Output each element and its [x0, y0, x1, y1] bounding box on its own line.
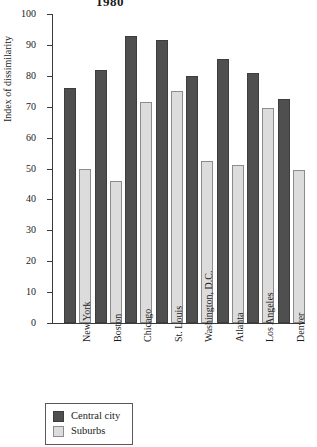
y-axis-tick: [47, 169, 53, 170]
x-axis-tick-label: Los Angeles: [264, 292, 275, 342]
x-axis-tick-label: New York: [81, 301, 92, 342]
legend-label: Central city: [71, 411, 120, 422]
y-axis-tick-label: 70: [26, 102, 36, 112]
bar-suburbs: [110, 181, 122, 323]
bar-group: [156, 14, 184, 323]
legend-label: Suburbs: [71, 426, 105, 437]
bar-suburbs: [293, 170, 305, 323]
bar-group: [247, 14, 275, 323]
y-axis-tick: [47, 45, 53, 46]
y-axis-tick: [47, 138, 53, 139]
bar-suburbs: [232, 165, 244, 323]
bar-central-city: [186, 76, 198, 323]
bar-group: [217, 14, 245, 323]
y-axis-tick-label: 90: [26, 40, 36, 50]
y-axis-tick-label: 60: [26, 133, 36, 143]
legend-item: Suburbs: [53, 424, 120, 439]
bar-central-city: [217, 59, 229, 323]
y-axis-title: Index of dissimilarity: [2, 36, 13, 122]
y-axis-tick-label: 30: [26, 225, 36, 235]
bar-suburbs: [262, 108, 274, 323]
y-axis-tick-label: 20: [26, 256, 36, 266]
bar-central-city: [247, 73, 259, 323]
y-axis-tick-label: 80: [26, 71, 36, 81]
x-axis-tick-label: Boston: [112, 314, 123, 342]
y-axis-tick: [47, 261, 53, 262]
chart-legend: Central citySuburbs: [45, 403, 133, 445]
bar-central-city: [125, 36, 137, 323]
legend-swatch-icon: [53, 426, 64, 437]
bar-suburbs: [171, 91, 183, 323]
bar-central-city: [278, 99, 290, 323]
bar-central-city: [64, 88, 76, 323]
chart-figure: 1980 Index of dissimilarity 010203040506…: [0, 0, 317, 447]
y-axis-tick-label: 40: [26, 194, 36, 204]
x-axis-tick-label: St. Louis: [173, 306, 184, 342]
bar-suburbs: [79, 169, 91, 324]
y-axis-tick: [47, 230, 53, 231]
bar-group: [95, 14, 123, 323]
x-axis-tick-label: Atlanta: [234, 313, 245, 342]
legend-item: Central city: [53, 409, 120, 424]
y-axis-tick: [47, 76, 53, 77]
bar-central-city: [95, 70, 107, 323]
y-axis-tick-label: 10: [26, 287, 36, 297]
x-axis-tick-label: Chicago: [142, 309, 153, 342]
bar-group: [125, 14, 153, 323]
bar-suburbs: [140, 102, 152, 323]
bar-central-city: [156, 40, 168, 323]
legend-swatch-icon: [53, 411, 64, 422]
x-axis-tick-label: Denver: [295, 313, 306, 342]
bar-group: [278, 14, 306, 323]
y-axis-tick-label: 0: [31, 318, 36, 328]
y-axis-tick: [47, 323, 53, 324]
x-axis-tick-label: Washington, D.C.: [203, 271, 214, 342]
y-axis-tick: [47, 292, 53, 293]
y-axis-tick-label: 50: [26, 164, 36, 174]
y-axis-tick-label: 100: [21, 9, 36, 19]
bar-group: [64, 14, 92, 323]
plot-area: 0102030405060708090100 New YorkBostonChi…: [53, 14, 305, 323]
y-axis-tick: [47, 14, 53, 15]
y-axis-tick: [47, 199, 53, 200]
y-axis-tick: [47, 107, 53, 108]
